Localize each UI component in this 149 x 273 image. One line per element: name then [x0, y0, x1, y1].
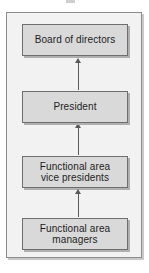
node-functional-area-vice-presidents[interactable]: Functional area vice presidents — [22, 156, 128, 188]
org-chart-frame: Board of directors President Functional … — [6, 12, 142, 258]
node-functional-area-managers[interactable]: Functional area managers — [22, 218, 128, 250]
arrow-shaft — [78, 127, 79, 155]
node-board-of-directors-label: Board of directors — [32, 34, 119, 46]
node-functional-area-managers-label: Functional area managers — [37, 223, 113, 246]
node-functional-area-vice-presidents-label: Functional area vice presidents — [37, 161, 113, 184]
node-president-label: President — [50, 101, 99, 113]
arrow-vice-presidents-to-president — [74, 58, 83, 90]
arrow-president-to-board — [74, 123, 83, 155]
arrow-managers-to-vice-presidents — [74, 189, 83, 217]
node-board-of-directors[interactable]: Board of directors — [22, 24, 128, 56]
top-edge-scan-artifact — [66, 0, 75, 3]
node-president[interactable]: President — [22, 91, 128, 123]
arrow-shaft — [78, 193, 79, 217]
arrow-shaft — [78, 62, 79, 90]
